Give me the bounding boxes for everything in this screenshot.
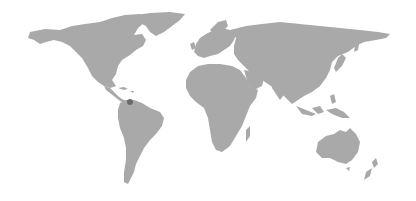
- continent-new-zealand: [364, 158, 378, 180]
- tasmania: [346, 167, 350, 171]
- continent-north-america: [28, 14, 150, 88]
- world-map: [0, 0, 416, 201]
- continent-south-america: [118, 100, 164, 184]
- continent-australia: [316, 128, 360, 164]
- caribbean-islands: [118, 87, 134, 93]
- location-marker-venezuela[interactable]: [127, 99, 133, 105]
- southeast-asia-islands: [296, 94, 350, 118]
- madagascar: [246, 126, 250, 142]
- world-map-svg: [0, 0, 416, 201]
